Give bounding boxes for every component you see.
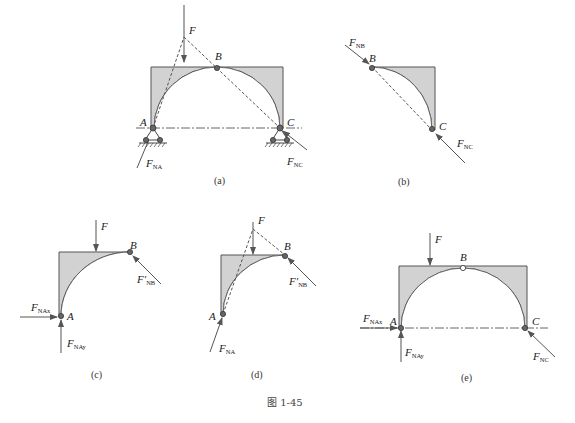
line-of-action-B (253, 229, 285, 255)
label-FNA: FNA (145, 157, 162, 170)
caption-e: (e) (461, 372, 472, 384)
hinge-A (58, 313, 63, 318)
label-B: B (460, 251, 467, 263)
label-FNC: FNC (456, 137, 473, 150)
label-F: F (188, 24, 196, 36)
panel-d: F B A F′NB FNA (d) (208, 214, 316, 381)
panel-b: FNB B C FNC (b) (345, 36, 473, 188)
label-FNB-prime: F′NB (288, 275, 308, 288)
hinge-B (214, 65, 219, 70)
label-FNAy: FNAy (404, 346, 425, 359)
caption-d: (d) (251, 369, 263, 381)
label-C: C (287, 116, 295, 128)
label-C: C (439, 120, 447, 132)
label-FNAy: FNAy (66, 337, 87, 350)
hinge-A (220, 311, 225, 316)
hinge-A (398, 325, 403, 330)
label-FNAx: FNAx (30, 301, 51, 314)
label-C: C (532, 315, 540, 327)
panel-a: F B A C FNA FNC (a) (136, 5, 307, 187)
label-F: F (257, 214, 265, 226)
label-FNAx: FNAx (362, 312, 383, 325)
label-FNC: FNC (532, 350, 549, 363)
hinge-B (282, 253, 287, 258)
caption-a: (a) (214, 175, 225, 187)
hinge-C (429, 126, 434, 131)
hinge-B (369, 65, 374, 70)
panel-e: F B A C FNAx FNAy FNC (e) (360, 233, 555, 384)
label-A: A (139, 116, 147, 128)
label-B: B (284, 240, 291, 252)
panel-c: F B A F′NB FNAx FNAy (c) (20, 220, 161, 381)
hinge-C (522, 325, 527, 330)
label-A: A (389, 315, 397, 327)
label-B: B (369, 52, 376, 64)
label-A: A (66, 310, 74, 322)
label-B: B (130, 239, 137, 251)
label-FNB: FNB (348, 36, 365, 49)
label-F: F (100, 220, 108, 232)
label-FNC: FNC (286, 155, 303, 168)
hinge-B (460, 265, 465, 270)
figure-canvas: F B A C FNA FNC (a) FNB B C FNC (b) F B … (0, 0, 575, 423)
label-F: F (434, 233, 442, 245)
label-B: B (215, 50, 222, 62)
label-A: A (208, 310, 216, 322)
label-FNA: FNA (218, 342, 235, 355)
label-FNB-prime: F′NB (136, 273, 156, 286)
caption-c: (c) (91, 369, 102, 381)
figure-caption: 图 1-45 (267, 397, 303, 408)
caption-b: (b) (398, 176, 410, 188)
